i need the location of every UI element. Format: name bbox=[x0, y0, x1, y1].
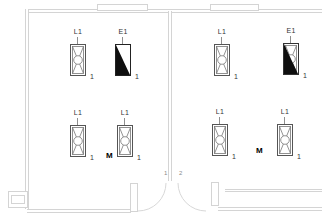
leader-line bbox=[221, 37, 222, 44]
fixture-count: 1 bbox=[303, 72, 307, 79]
fixture-e1-topright[interactable]: E1 1 bbox=[283, 43, 299, 75]
emergency-luminaire-icon bbox=[283, 43, 299, 75]
fixture-count: 1 bbox=[232, 153, 236, 160]
luminaire-icon bbox=[277, 124, 293, 156]
bottom-wall-left-segment bbox=[27, 209, 131, 213]
fixture-e1-topleft[interactable]: E1 1 bbox=[115, 44, 131, 76]
leader-line bbox=[77, 37, 78, 44]
leader-line bbox=[284, 117, 285, 124]
fixture-label: E1 bbox=[277, 27, 305, 34]
luminaire-icon bbox=[212, 124, 228, 156]
exterior-panel-box-inner bbox=[11, 195, 25, 204]
leader-line bbox=[290, 36, 291, 43]
luminaire-icon bbox=[70, 44, 86, 76]
motion-marker: M bbox=[106, 151, 113, 160]
fixture-l1-bottomright-2[interactable]: L1 1 bbox=[277, 124, 293, 156]
fixture-l1-topright[interactable]: L1 1 bbox=[214, 44, 230, 76]
fixture-label: L1 bbox=[111, 109, 139, 116]
door-leaf-2-label: 2 bbox=[179, 170, 182, 176]
emergency-light-icon bbox=[115, 44, 131, 76]
fixture-count: 1 bbox=[135, 73, 139, 80]
fixture-count: 1 bbox=[90, 73, 94, 80]
luminaire-icon bbox=[117, 125, 133, 157]
fixture-count: 1 bbox=[234, 73, 238, 80]
motion-marker: M bbox=[256, 146, 263, 155]
door-jamb-right bbox=[211, 182, 219, 206]
left-exterior-wall bbox=[25, 9, 29, 209]
fixture-label: L1 bbox=[208, 28, 236, 35]
top-exterior-wall bbox=[27, 9, 322, 13]
fixture-l1-bottomleft-1[interactable]: L1 1 bbox=[70, 125, 86, 157]
bottom-wall-right-segment bbox=[218, 207, 322, 211]
fixture-label: L1 bbox=[64, 109, 92, 116]
fixture-l1-bottomright-1[interactable]: L1 1 bbox=[212, 124, 228, 156]
leader-line bbox=[219, 117, 220, 124]
floor-plan-canvas: 1 2 L1 1 E1 1 L1 1 bbox=[0, 0, 322, 223]
door-leaf-1-label: 1 bbox=[164, 170, 167, 176]
top-wall-window-right bbox=[210, 4, 259, 11]
door-jamb-left bbox=[130, 183, 138, 212]
fixture-label: L1 bbox=[271, 108, 299, 115]
fixture-l1-topleft[interactable]: L1 1 bbox=[70, 44, 86, 76]
top-wall-window-left bbox=[97, 4, 148, 11]
fixture-count: 1 bbox=[137, 154, 141, 161]
luminaire-icon bbox=[70, 125, 86, 157]
luminaire-icon bbox=[214, 44, 230, 76]
fixture-count: 1 bbox=[90, 154, 94, 161]
bottom-wall-right-inner-face bbox=[225, 189, 322, 192]
fixture-label: L1 bbox=[64, 28, 92, 35]
fixture-label: L1 bbox=[206, 108, 234, 115]
fixture-count: 1 bbox=[297, 153, 301, 160]
leader-line bbox=[124, 118, 125, 125]
center-partition-wall bbox=[168, 11, 172, 181]
fixture-l1-bottomleft-2[interactable]: L1 M 1 bbox=[117, 125, 133, 157]
leader-line bbox=[122, 37, 123, 44]
leader-line bbox=[77, 118, 78, 125]
fixture-label: E1 bbox=[109, 28, 137, 35]
